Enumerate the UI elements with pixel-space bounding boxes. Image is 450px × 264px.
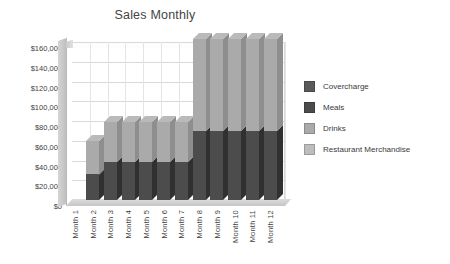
x-axis-tick-label: Month 6 bbox=[160, 210, 169, 239]
bar-group[interactable] bbox=[157, 122, 170, 200]
bar-group[interactable] bbox=[246, 39, 259, 200]
bar-segment-face bbox=[228, 39, 241, 131]
y-axis-tick-label: $160,000 bbox=[0, 44, 62, 53]
bar-segment[interactable] bbox=[139, 122, 152, 162]
bar-segment[interactable] bbox=[139, 162, 152, 200]
legend: CoverchargeMealsDrinksRestaurant Merchan… bbox=[304, 76, 450, 160]
bar-segment[interactable] bbox=[157, 122, 170, 162]
y-axis-tick-label: $40,000 bbox=[0, 162, 62, 171]
legend-swatch-icon bbox=[304, 81, 315, 92]
bar-group[interactable] bbox=[264, 39, 277, 200]
bar-segment-face bbox=[157, 162, 170, 200]
legend-label: Meals bbox=[323, 103, 344, 112]
bar-segment-face bbox=[139, 162, 152, 200]
legend-label: Covercharge bbox=[323, 82, 369, 91]
bar-segment[interactable] bbox=[210, 131, 223, 200]
legend-item[interactable]: Restaurant Merchandise bbox=[304, 139, 450, 160]
x-axis-labels: Month 1Month 2Month 3Month 4Month 5Month… bbox=[66, 210, 296, 264]
bar-segment-face bbox=[104, 122, 117, 162]
y-axis-labels: $0$20,000$40,000$60,000$80,000$100,000$1… bbox=[0, 0, 62, 264]
bar-segment-face bbox=[122, 162, 135, 200]
bar-segment-face bbox=[210, 39, 223, 131]
x-axis-tick-label: Month 3 bbox=[106, 210, 115, 239]
bar-segment-face bbox=[122, 122, 135, 162]
bar-group[interactable] bbox=[193, 39, 206, 200]
bar-segment-face bbox=[104, 162, 117, 200]
bar-segment[interactable] bbox=[210, 39, 223, 131]
bar-segment[interactable] bbox=[104, 162, 117, 200]
legend-item[interactable]: Drinks bbox=[304, 118, 450, 139]
bars-layer bbox=[66, 42, 285, 206]
bar-segment[interactable] bbox=[157, 162, 170, 200]
bar-segment-face bbox=[246, 131, 259, 200]
bar-segment[interactable] bbox=[246, 131, 259, 200]
bar-group[interactable] bbox=[139, 122, 152, 200]
bar-segment-side bbox=[277, 125, 283, 200]
y-axis-tick-label: $60,000 bbox=[0, 142, 62, 151]
bar-segment-side bbox=[277, 33, 283, 131]
bar-segment-face bbox=[246, 39, 259, 131]
bar-segment[interactable] bbox=[175, 162, 188, 200]
x-axis-tick-label: Month 12 bbox=[266, 210, 275, 243]
x-axis-tick-label: Month 10 bbox=[231, 210, 240, 243]
y-axis-tick-label: $100,000 bbox=[0, 103, 62, 112]
bar-segment[interactable] bbox=[122, 162, 135, 200]
x-axis-tick-label: Month 11 bbox=[248, 210, 257, 242]
bar-segment-face bbox=[139, 122, 152, 162]
bar-segment[interactable] bbox=[193, 39, 206, 131]
legend-item[interactable]: Meals bbox=[304, 97, 450, 118]
y-axis-tick-label: $0 bbox=[0, 202, 62, 211]
bar-segment-face bbox=[157, 122, 170, 162]
legend-label: Drinks bbox=[323, 124, 346, 133]
bar-segment[interactable] bbox=[264, 131, 277, 200]
y-axis-tick-label: $20,000 bbox=[0, 182, 62, 191]
bar-group[interactable] bbox=[228, 39, 241, 200]
bar-segment[interactable] bbox=[264, 39, 277, 131]
bar-segment[interactable] bbox=[122, 122, 135, 162]
gridline-vertical bbox=[285, 42, 286, 200]
bar-group[interactable] bbox=[86, 141, 99, 200]
bar-segment[interactable] bbox=[228, 131, 241, 200]
bar-group[interactable] bbox=[210, 39, 223, 200]
legend-label: Restaurant Merchandise bbox=[323, 145, 410, 154]
legend-item[interactable]: Covercharge bbox=[304, 76, 450, 97]
bar-segment-face bbox=[193, 131, 206, 200]
x-axis-tick-label: Month 1 bbox=[71, 210, 80, 239]
x-axis-tick-label: Month 2 bbox=[89, 210, 98, 239]
y-axis-tick-label: $120,000 bbox=[0, 83, 62, 92]
bar-segment-face bbox=[86, 141, 99, 175]
bar-segment[interactable] bbox=[175, 122, 188, 162]
bar-segment[interactable] bbox=[193, 131, 206, 200]
bar-segment[interactable] bbox=[86, 141, 99, 175]
x-axis-tick-label: Month 9 bbox=[213, 210, 222, 239]
bar-group[interactable] bbox=[175, 122, 188, 200]
bar-group[interactable] bbox=[104, 122, 117, 200]
bar-segment-face bbox=[86, 174, 99, 200]
y-axis-tick-label: $140,000 bbox=[0, 63, 62, 72]
legend-swatch-icon bbox=[304, 123, 315, 134]
bar-segment-face bbox=[193, 39, 206, 131]
bar-segment-face bbox=[228, 131, 241, 200]
bar-group[interactable] bbox=[122, 122, 135, 200]
bar-segment[interactable] bbox=[228, 39, 241, 131]
legend-swatch-icon bbox=[304, 102, 315, 113]
legend-swatch-icon bbox=[304, 144, 315, 155]
bar-segment[interactable] bbox=[86, 174, 99, 200]
bar-segment-face bbox=[264, 39, 277, 131]
x-axis-tick-label: Month 5 bbox=[142, 210, 151, 239]
chart-container: Sales Monthly $0$20,000$40,000$60,000$80… bbox=[0, 0, 450, 264]
bar-segment-face bbox=[175, 122, 188, 162]
y-axis-tick-label: $80,000 bbox=[0, 123, 62, 132]
bar-segment-face bbox=[264, 131, 277, 200]
x-axis-tick-label: Month 8 bbox=[195, 210, 204, 239]
bar-segment-face bbox=[210, 131, 223, 200]
bar-segment[interactable] bbox=[104, 122, 117, 162]
plot-area bbox=[66, 42, 285, 206]
bar-segment-face bbox=[175, 162, 188, 200]
bar-segment[interactable] bbox=[246, 39, 259, 131]
x-axis-tick-label: Month 4 bbox=[124, 210, 133, 239]
x-axis-tick-label: Month 7 bbox=[177, 210, 186, 239]
